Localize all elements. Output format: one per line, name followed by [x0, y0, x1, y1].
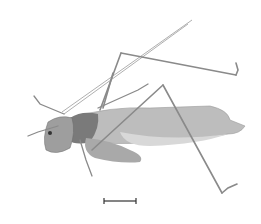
- antennae: [62, 20, 192, 114]
- scale-bar: [104, 198, 136, 204]
- katydid-illustration: [0, 0, 261, 224]
- specimen-photo: [0, 0, 261, 224]
- body: [44, 106, 245, 163]
- hind-leg-upper: [100, 53, 238, 110]
